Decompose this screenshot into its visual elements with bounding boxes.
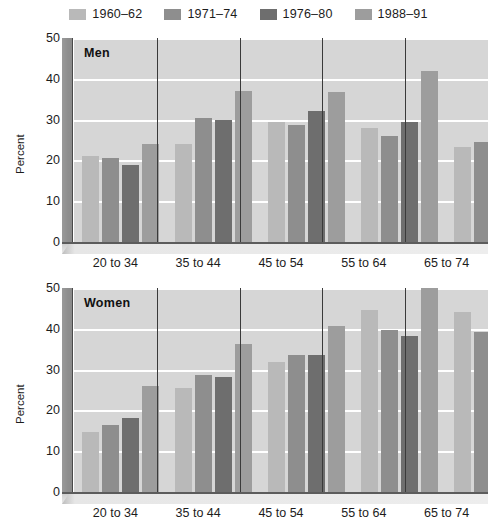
legend-swatch-icon [355, 9, 372, 20]
chart-legend: 1960–621971–741976–801988–91 [0, 0, 497, 28]
bar [401, 122, 418, 242]
plot-canvas: Men [74, 38, 488, 242]
y-axis-ticks: 01020304050 [30, 28, 60, 276]
x-axis-tick-label: 35 to 44 [157, 506, 240, 524]
axis-side-wall [62, 288, 73, 504]
x-axis-ticks: 20 to 3435 to 4445 to 5455 to 6465 to 74 [74, 506, 488, 524]
bar [474, 142, 488, 242]
x-axis-tick-label: 20 to 34 [74, 256, 157, 274]
bar [175, 388, 192, 492]
bar [235, 344, 252, 493]
bar [381, 136, 398, 242]
legend-label: 1960–62 [92, 7, 142, 21]
bar-group [353, 38, 446, 242]
bar [328, 92, 345, 242]
bar [102, 158, 119, 242]
axis-base-floor [62, 242, 488, 254]
axis-base-floor [62, 492, 488, 504]
bar-group [167, 288, 260, 492]
axis-side-wall [62, 38, 73, 254]
bar [381, 330, 398, 492]
bar [454, 147, 471, 242]
bar-group [74, 288, 167, 492]
y-axis-tick-label: 0 [34, 236, 60, 249]
bar [288, 125, 305, 243]
legend-item: 1988–91 [355, 7, 428, 21]
y-axis-tick-label: 20 [34, 404, 60, 417]
panel-women: Percent01020304050Women20 to 3435 to 444… [0, 278, 497, 526]
legend-item: 1976–80 [260, 7, 333, 21]
y-axis-label: Percent [14, 124, 28, 184]
y-axis-tick-label: 0 [34, 486, 60, 499]
plot-area: Women [62, 288, 488, 504]
category-separator [405, 288, 406, 492]
bar [215, 120, 232, 242]
x-axis-tick-label: 65 to 74 [405, 506, 488, 524]
y-axis-label: Percent [14, 374, 28, 434]
y-axis-tick-label: 50 [34, 282, 60, 295]
plot-area: Men [62, 38, 488, 254]
category-separator [240, 38, 241, 242]
bar [122, 165, 139, 242]
x-axis-tick-label: 65 to 74 [405, 256, 488, 274]
category-separator [405, 38, 406, 242]
legend-label: 1976–80 [283, 7, 333, 21]
bar [328, 326, 345, 492]
bar [268, 362, 285, 492]
legend-swatch-icon [260, 9, 277, 20]
y-axis-tick-label: 20 [34, 154, 60, 167]
y-axis-tick-label: 30 [34, 113, 60, 126]
bar [195, 118, 212, 242]
legend-item: 1971–74 [164, 7, 237, 21]
bar-groups [74, 38, 488, 242]
bar [421, 71, 438, 242]
panel-title: Women [84, 296, 130, 310]
category-separator [240, 288, 241, 492]
y-axis-tick-label: 30 [34, 363, 60, 376]
bar [421, 288, 438, 492]
x-axis-tick-label: 35 to 44 [157, 256, 240, 274]
bar [82, 156, 99, 242]
category-separator [322, 288, 323, 492]
bar [122, 418, 139, 492]
x-axis-tick-label: 55 to 64 [322, 506, 405, 524]
x-axis-tick-label: 20 to 34 [74, 506, 157, 524]
bar [268, 122, 285, 242]
bar [82, 432, 99, 492]
y-axis-tick-label: 50 [34, 32, 60, 45]
plot-canvas: Women [74, 288, 488, 492]
bar [175, 144, 192, 242]
bar [474, 332, 488, 492]
legend-label: 1971–74 [187, 7, 237, 21]
legend-swatch-icon [69, 9, 86, 20]
bar [195, 375, 212, 493]
x-axis-tick-label: 55 to 64 [322, 256, 405, 274]
y-axis-tick-label: 10 [34, 195, 60, 208]
bar-group [260, 288, 353, 492]
bar-groups [74, 288, 488, 492]
figure: 1960–621971–741976–801988–91 Percent0102… [0, 0, 497, 530]
bar [361, 310, 378, 492]
category-separator [322, 38, 323, 242]
y-axis-ticks: 01020304050 [30, 278, 60, 526]
bar [288, 355, 305, 492]
bar-group [260, 38, 353, 242]
bar-group [74, 38, 167, 242]
category-separator [157, 38, 158, 242]
bar [454, 312, 471, 492]
bar [401, 336, 418, 492]
legend-swatch-icon [164, 9, 181, 20]
x-axis-ticks: 20 to 3435 to 4445 to 5455 to 6465 to 74 [74, 256, 488, 274]
panel-men: Percent01020304050Men20 to 3435 to 4445 … [0, 28, 497, 276]
x-axis-tick-label: 45 to 54 [240, 506, 323, 524]
legend-label: 1988–91 [378, 7, 428, 21]
y-axis-tick-label: 10 [34, 445, 60, 458]
category-separator [157, 288, 158, 492]
y-axis-tick-label: 40 [34, 73, 60, 86]
bar [361, 128, 378, 242]
x-axis-tick-label: 45 to 54 [240, 256, 323, 274]
bar [235, 91, 252, 242]
bar-group [446, 38, 488, 242]
panel-title: Men [84, 46, 110, 60]
bar-group [353, 288, 446, 492]
